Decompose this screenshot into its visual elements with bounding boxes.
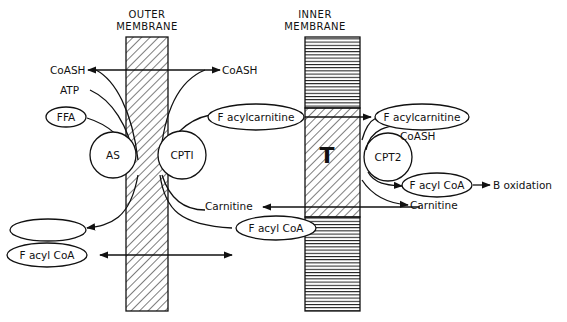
ffa-node: FFA [46,107,86,127]
translocase-label: T [319,143,334,168]
facylcarnitine-mid-label: F acylcarnitine [218,111,295,123]
facylcoa-mid-label: F acyl CoA [249,222,305,234]
inner-membrane-label-2: MEMBRANE [284,21,346,32]
cpt1-label: CPTI [170,149,193,161]
coash-left-label: CoASH [50,64,86,76]
ffa-label: FFA [57,111,76,123]
facylcoa-left-label: F acyl CoA [20,249,76,261]
facylcarnitine-mid-node: F acylcarnitine [208,104,304,130]
inner-membrane-label-1: INNER [298,9,332,20]
as-label: AS [106,149,120,161]
facylcarnitine-right-label: F acylcarnitine [384,111,461,123]
facylcoa-right-node: F acyl CoA [402,173,472,197]
carnitine-right-label: Carnitine [410,199,458,211]
outer-membrane-label-1: OUTER [128,9,165,20]
coash-mid-label: CoASH [222,64,258,76]
as-enzyme: AS [90,132,136,178]
facylcarnitine-right-node: F acylcarnitine [375,104,469,130]
atp-label: ATP [60,84,79,96]
coash-right-label: CoASH [400,130,436,142]
cpt2-label: CPT2 [375,151,402,163]
facylcoa-right-label: F acyl CoA [410,179,466,191]
carnitine-mid-label: Carnitine [205,200,253,212]
facylcoa-mid-node: F acyl CoA [236,216,316,240]
cpt1-enzyme: CPTI [158,131,206,179]
facylcoa-left-node-2: F acyl CoA [7,243,87,267]
facylcoa-left-node [10,219,86,241]
outer-membrane-label-2: MEMBRANE [116,21,178,32]
fatty-acid-transport-diagram: OUTER MEMBRANE INNER MEMBRANE AS CPTI Co… [0,0,567,322]
b-oxidation-label: B oxidation [493,179,552,191]
